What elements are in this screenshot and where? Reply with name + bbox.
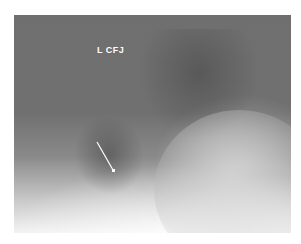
arrow-annotation-icon — [14, 15, 291, 233]
xray-image: L CFJ — [14, 15, 291, 233]
